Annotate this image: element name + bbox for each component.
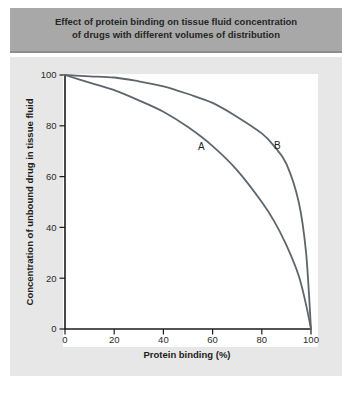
y-tick-label: 60 xyxy=(46,171,57,182)
x-tick-label: 0 xyxy=(62,334,67,345)
y-axis-label: Concentration of unbound drug in tissue … xyxy=(24,73,36,331)
x-tick-label: 100 xyxy=(303,334,319,345)
x-axis-label: Protein binding (%) xyxy=(63,349,311,361)
x-tick-label: 80 xyxy=(257,334,268,345)
x-tick-label: 40 xyxy=(158,334,169,345)
curve-label-B: B xyxy=(274,140,281,152)
y-tick-label: 20 xyxy=(46,273,57,284)
x-tick-label: 20 xyxy=(109,334,120,345)
axes xyxy=(65,75,311,329)
curve-label-A: A xyxy=(198,141,205,153)
y-tick-label: 80 xyxy=(46,120,57,131)
x-tick-label: 60 xyxy=(207,334,218,345)
chart-canvas: 020406080100020406080100 xyxy=(0,0,350,396)
curve-A xyxy=(65,75,311,329)
y-tick-label: 100 xyxy=(41,69,57,80)
figure: Effect of protein binding on tissue flui… xyxy=(0,0,350,396)
curve-B xyxy=(65,75,311,329)
y-tick-label: 40 xyxy=(46,222,57,233)
y-tick-label: 0 xyxy=(51,323,56,334)
